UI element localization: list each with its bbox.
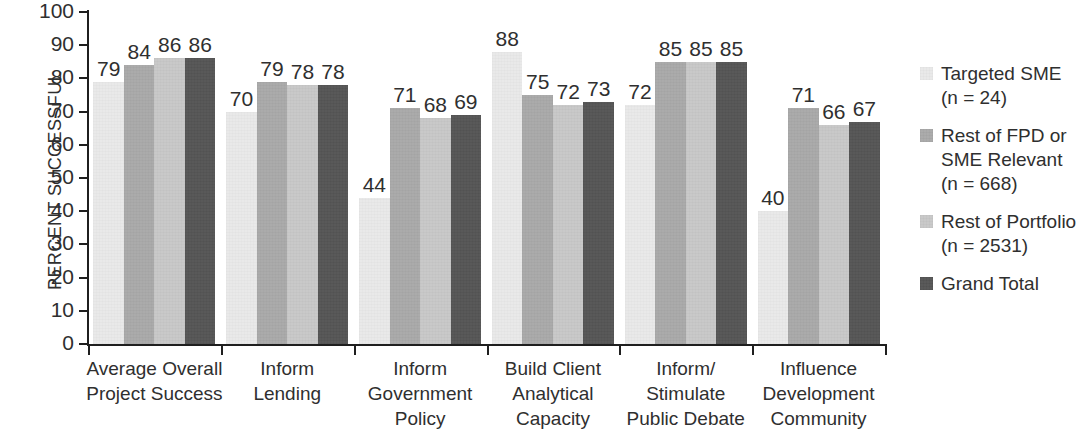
x-axis-category-label: Average Overall Project Success xyxy=(78,356,231,406)
bar: 86 xyxy=(154,58,185,344)
bar: 67 xyxy=(849,122,880,344)
bar-value-label: 86 xyxy=(188,34,211,55)
bar: 66 xyxy=(819,125,850,344)
bar-value-label: 72 xyxy=(556,81,579,102)
bar-value-label: 88 xyxy=(495,28,518,49)
x-axis-tick-mark xyxy=(885,345,887,355)
bar-value-label: 78 xyxy=(291,61,314,82)
y-axis-tick-mark xyxy=(79,77,88,79)
bar-value-label: 66 xyxy=(822,101,845,122)
x-axis-tick-mark xyxy=(354,345,356,355)
bar: 69 xyxy=(451,115,482,344)
y-axis-tick-label: 0 xyxy=(62,331,74,355)
bar: 85 xyxy=(686,62,717,344)
y-axis-tick-label: 40 xyxy=(51,198,74,222)
y-axis-tick-mark xyxy=(79,243,88,245)
bar: 70 xyxy=(226,112,257,344)
bar: 78 xyxy=(318,85,349,344)
bar-value-label: 85 xyxy=(659,38,682,59)
bar-group: 70797878 xyxy=(221,12,354,344)
y-axis-tick-mark xyxy=(79,343,88,345)
x-axis-tick-mark xyxy=(752,345,754,355)
legend-item: Targeted SME (n = 24) xyxy=(920,62,1085,110)
x-axis-tick-mark xyxy=(221,345,223,355)
x-axis-tick-mark xyxy=(619,345,621,355)
bar-value-label: 68 xyxy=(424,94,447,115)
bar: 84 xyxy=(124,65,155,344)
legend-swatch xyxy=(920,215,933,228)
bar: 88 xyxy=(492,52,523,344)
y-axis-tick-label: 10 xyxy=(51,298,74,322)
bar: 40 xyxy=(758,211,789,344)
bar-value-label: 75 xyxy=(526,71,549,92)
y-axis-tick-mark xyxy=(79,277,88,279)
bar-group: 72858585 xyxy=(619,12,752,344)
y-axis-tick-mark xyxy=(79,44,88,46)
bar: 78 xyxy=(287,85,318,344)
bar: 85 xyxy=(716,62,747,344)
bar-value-label: 69 xyxy=(454,91,477,112)
y-axis-tick-mark xyxy=(79,177,88,179)
y-axis-tick-label: 70 xyxy=(51,99,74,123)
bar: 71 xyxy=(788,108,819,344)
y-axis-tick-mark xyxy=(79,11,88,13)
bar: 79 xyxy=(93,82,124,344)
bar-value-label: 73 xyxy=(587,78,610,99)
y-axis-tick-mark xyxy=(79,210,88,212)
bar-value-label: 44 xyxy=(363,174,386,195)
bar-value-label: 71 xyxy=(792,84,815,105)
y-axis-tick-label: 50 xyxy=(51,165,74,189)
x-axis-tick-mark xyxy=(487,345,489,355)
legend-item: Grand Total xyxy=(920,272,1085,296)
bar: 85 xyxy=(655,62,686,344)
bar-chart: PERCENT SUCCESSFUL 100908070605040302010… xyxy=(0,0,1085,436)
bar-value-label: 70 xyxy=(230,88,253,109)
bar-value-label: 86 xyxy=(158,34,181,55)
bar: 71 xyxy=(390,108,421,344)
bar-group: 88757273 xyxy=(487,12,620,344)
y-axis-tick-label: 80 xyxy=(51,65,74,89)
bar-value-label: 79 xyxy=(260,58,283,79)
bar-value-label: 79 xyxy=(97,58,120,79)
legend-label: Targeted SME (n = 24) xyxy=(941,62,1061,110)
bar-value-label: 67 xyxy=(853,98,876,119)
legend-label: Rest of Portfolio (n = 2531) xyxy=(941,210,1076,258)
bar-group: 40716667 xyxy=(752,12,885,344)
bar: 72 xyxy=(625,105,656,344)
bar: 68 xyxy=(420,118,451,344)
bar-value-label: 85 xyxy=(689,38,712,59)
bar: 79 xyxy=(257,82,288,344)
bar-value-label: 71 xyxy=(393,84,416,105)
chart-legend: Targeted SME (n = 24)Rest of FPD or SME … xyxy=(920,62,1085,310)
bar-group: 79848686 xyxy=(88,12,221,344)
legend-label: Grand Total xyxy=(941,272,1039,296)
bar-value-label: 78 xyxy=(321,61,344,82)
bar-value-label: 84 xyxy=(127,41,150,62)
legend-item: Rest of FPD or SME Relevant (n = 668) xyxy=(920,124,1085,196)
x-axis-category-label: Inform/ Stimulate Public Debate xyxy=(609,356,762,431)
y-axis-tick-label: 90 xyxy=(51,32,74,56)
bar: 44 xyxy=(359,198,390,344)
y-axis-tick-label: 100 xyxy=(39,0,74,23)
legend-label: Rest of FPD or SME Relevant (n = 668) xyxy=(941,124,1067,196)
plot-area: 7984868670797878447168698875727372858585… xyxy=(88,12,885,344)
legend-item: Rest of Portfolio (n = 2531) xyxy=(920,210,1085,258)
legend-swatch xyxy=(920,277,933,290)
legend-swatch xyxy=(920,67,933,80)
bar-value-label: 85 xyxy=(720,38,743,59)
y-axis-tick-label: 20 xyxy=(51,265,74,289)
x-axis-category-label: Inform Government Policy xyxy=(344,356,497,431)
y-axis-tick-mark xyxy=(79,144,88,146)
bar: 72 xyxy=(553,105,584,344)
bar-group: 44716869 xyxy=(354,12,487,344)
bar-value-label: 72 xyxy=(628,81,651,102)
legend-swatch xyxy=(920,129,933,142)
x-axis-category-label: Influence Development Community xyxy=(742,356,895,431)
y-axis-tick-label: 30 xyxy=(51,231,74,255)
y-axis-tick-mark xyxy=(79,310,88,312)
x-axis-category-label: Inform Lending xyxy=(211,356,364,406)
bar-value-label: 40 xyxy=(761,187,784,208)
y-axis-tick-label: 60 xyxy=(51,132,74,156)
x-axis-tick-mark xyxy=(88,345,90,355)
bar: 75 xyxy=(522,95,553,344)
